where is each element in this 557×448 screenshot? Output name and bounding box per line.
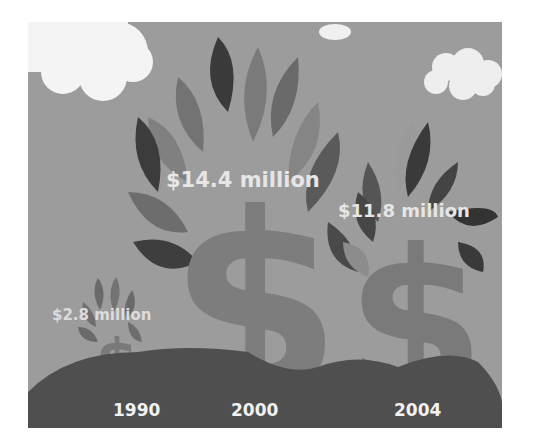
year-label-2004: 2004 <box>394 400 441 420</box>
illustration: $ $ $ <box>28 22 502 428</box>
cloud-icon <box>319 24 351 40</box>
cloud-icon <box>28 22 153 101</box>
infographic-panel: $ $ $ $14.4 million $11.8 million $2.8 m… <box>28 22 502 428</box>
cloud-icon <box>424 48 502 100</box>
value-label-2000: $14.4 million <box>166 168 320 192</box>
year-label-1990: 1990 <box>113 400 160 420</box>
value-label-2004: $11.8 million <box>338 200 470 221</box>
year-label-2000: 2000 <box>231 400 278 420</box>
value-label-1990: $2.8 million <box>52 306 151 324</box>
